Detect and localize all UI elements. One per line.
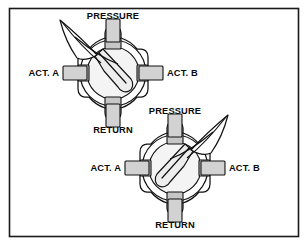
valve-lower-label-act-a: ACT. A — [90, 163, 121, 173]
valve-diagram-canvas: PRESSURE RETURN ACT. A ACT. B — [0, 0, 308, 246]
valve-lower-label-pressure: PRESSURE — [149, 106, 201, 116]
valve-lower-port-act-a — [125, 161, 149, 175]
valve-lower-label-act-b: ACT. B — [229, 163, 260, 173]
figure-root: PRESSURE RETURN ACT. A ACT. B — [0, 0, 308, 246]
valve-upper-port-act-b — [139, 66, 163, 80]
valve-upper-label-pressure: PRESSURE — [87, 11, 139, 21]
valve-upper-port-pressure — [106, 19, 120, 42]
valve-upper-port-return — [106, 104, 120, 127]
valve-upper-label-return: RETURN — [93, 125, 133, 135]
valve-upper-label-act-b: ACT. B — [167, 68, 198, 78]
figure-border — [10, 9, 299, 237]
valve-lower-port-return — [168, 199, 182, 222]
valve-lower-port-act-b — [201, 161, 225, 175]
valve-upper-port-act-a — [63, 66, 87, 80]
valve-upper-label-act-a: ACT. A — [28, 68, 59, 78]
valve-lower-label-return: RETURN — [155, 220, 195, 230]
valve-lower-port-pressure — [168, 114, 182, 137]
